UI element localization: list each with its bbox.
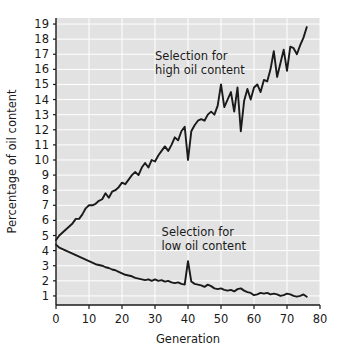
- x-tick-label: 40: [181, 312, 196, 326]
- y-tick-label: 3: [42, 259, 49, 273]
- chart-figure: 12345678910111213141516171819 0102030405…: [0, 0, 346, 352]
- y-tick-label: 14: [34, 93, 49, 107]
- x-tick-label: 10: [82, 312, 97, 326]
- x-tick-label: 70: [280, 312, 295, 326]
- annotation-label: Selection forlow oil content: [162, 225, 247, 253]
- y-tick-label: 13: [34, 108, 49, 122]
- oil-content-line-chart: 12345678910111213141516171819 0102030405…: [0, 0, 346, 352]
- y-tick-label: 16: [34, 62, 49, 76]
- y-tick-label: 2: [42, 274, 49, 288]
- y-tick-label: 5: [42, 229, 49, 243]
- y-tick-label: 10: [34, 153, 49, 167]
- y-tick-label: 7: [42, 198, 49, 212]
- y-tick-label: 17: [34, 47, 49, 61]
- y-tick-label: 8: [42, 183, 49, 197]
- y-tick-label: 4: [42, 244, 49, 258]
- y-tick-label: 11: [34, 138, 49, 152]
- x-tick-label: 20: [115, 312, 130, 326]
- annotation-line-2: low oil content: [162, 239, 247, 253]
- x-tick-label: 0: [52, 312, 59, 326]
- annotation-line-1: Selection for: [155, 49, 228, 63]
- x-tick-label: 80: [313, 312, 328, 326]
- x-tick-label: 60: [247, 312, 262, 326]
- x-tick-label: 50: [214, 312, 229, 326]
- x-axis-tick-labels: 01020304050607080: [52, 312, 327, 326]
- y-tick-label: 18: [34, 32, 49, 46]
- y-tick-label: 15: [34, 77, 49, 91]
- x-tick-label: 30: [148, 312, 163, 326]
- y-axis-title: Percentage of oil content: [5, 89, 19, 234]
- y-tick-label: 9: [42, 168, 49, 182]
- y-tick-label: 12: [34, 123, 49, 137]
- annotation-line-2: high oil content: [155, 63, 245, 77]
- y-tick-label: 19: [34, 17, 49, 31]
- x-axis-title: Generation: [156, 332, 220, 346]
- y-tick-label: 1: [42, 289, 49, 303]
- y-tick-label: 6: [42, 213, 49, 227]
- annotation-line-1: Selection for: [162, 225, 235, 239]
